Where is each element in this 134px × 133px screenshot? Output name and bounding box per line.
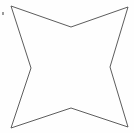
noise-speck (2, 12, 4, 15)
star-svg (0, 0, 134, 133)
figure-canvas (0, 0, 134, 133)
four-pointed-star-outline (11, 6, 128, 128)
